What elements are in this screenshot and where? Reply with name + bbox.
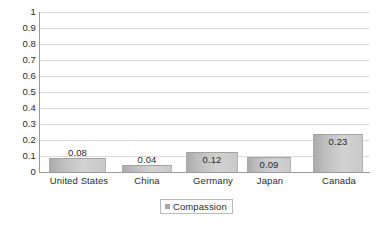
bars-layer: 0.08 0.04 0.12 0.09 0.23 xyxy=(40,12,370,172)
y-tick-label: 0.9 xyxy=(2,23,36,33)
y-tick-label: 0 xyxy=(2,167,36,177)
category-label-united-states: United States xyxy=(37,175,121,187)
y-tick-label: 1 xyxy=(2,7,36,17)
bar-group-china[interactable]: 0.04 xyxy=(122,12,172,172)
y-tick-label: 0.3 xyxy=(2,119,36,129)
y-axis-tick-labels: 1 0.9 0.8 0.7 0.6 0.5 0.4 0.3 0.2 0.1 0 xyxy=(0,0,36,180)
y-tick-label: 0.6 xyxy=(2,71,36,81)
y-tick-label: 0.8 xyxy=(2,39,36,49)
bar-value-label: 0.08 xyxy=(49,148,106,158)
y-tick-label: 0.4 xyxy=(2,103,36,113)
bar[interactable] xyxy=(49,158,106,172)
bar-group-japan[interactable]: 0.09 xyxy=(247,12,291,172)
category-label-germany: Germany xyxy=(176,175,250,187)
bar-value-label: 0.09 xyxy=(247,160,291,170)
y-tick-label: 0.2 xyxy=(2,135,36,145)
x-axis-category-labels: United States China Germany Japan Canada xyxy=(40,175,370,189)
category-label-canada: Canada xyxy=(308,175,370,187)
bar-value-label: 0.12 xyxy=(186,155,238,165)
y-tick-label: 0.1 xyxy=(2,151,36,161)
category-label-china: China xyxy=(116,175,178,187)
bar[interactable] xyxy=(122,165,172,172)
bar-group-united-states[interactable]: 0.08 xyxy=(49,12,106,172)
bar-value-label: 0.04 xyxy=(122,155,172,165)
plot-area: 0.08 0.04 0.12 0.09 0.23 xyxy=(40,12,370,172)
bar-chart: 1 0.9 0.8 0.7 0.6 0.5 0.4 0.3 0.2 0.1 0 … xyxy=(0,0,386,226)
y-tick-label: 0.7 xyxy=(2,55,36,65)
y-tick-label: 0.5 xyxy=(2,87,36,97)
chart-legend[interactable]: Compassion xyxy=(160,199,233,214)
legend-label-compassion: Compassion xyxy=(173,201,227,212)
bar-group-canada[interactable]: 0.23 xyxy=(313,12,363,172)
category-label-japan: Japan xyxy=(242,175,298,187)
bar-value-label: 0.23 xyxy=(313,137,363,147)
x-axis-line xyxy=(40,172,370,173)
legend-swatch-icon xyxy=(165,204,170,209)
bar-group-germany[interactable]: 0.12 xyxy=(186,12,238,172)
